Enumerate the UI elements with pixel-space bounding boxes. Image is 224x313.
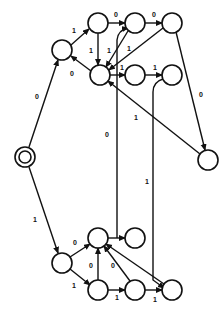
state-node-a <box>52 40 72 60</box>
state-node-t2 <box>125 13 145 33</box>
state-node-r <box>198 150 218 170</box>
edge-label: 1 <box>107 47 111 54</box>
edge-label: 1 <box>134 114 138 121</box>
state-node-m3 <box>162 65 182 85</box>
edge-label: 0 <box>35 93 39 100</box>
state-node-t1 <box>88 13 108 33</box>
edge-label: 1 <box>120 64 124 71</box>
edge-label: 1 <box>145 178 149 185</box>
edge-label: 1 <box>33 216 37 223</box>
state-node-m2 <box>125 65 145 85</box>
edge-label: 1 <box>115 294 119 301</box>
edge-m3-to-b6 <box>153 79 164 288</box>
edge-s-to-a <box>29 60 58 147</box>
edge-r-to-m <box>108 81 200 154</box>
edges-layer <box>29 23 205 290</box>
edge-label: 1 <box>153 296 157 303</box>
edge-m-to-a <box>71 56 91 71</box>
state-node-t3 <box>162 13 182 33</box>
edge-label: 0 <box>105 131 109 138</box>
edge-label: 0 <box>199 91 203 98</box>
edge-label: 0 <box>114 11 118 18</box>
edge-label: 1 <box>127 45 131 52</box>
state-node-b1 <box>52 253 72 273</box>
start-state-inner-ring <box>19 151 31 163</box>
state-node-b6 <box>162 280 182 300</box>
state-node-b3 <box>125 228 145 248</box>
edge-label: 1 <box>72 27 76 34</box>
state-node-b4 <box>88 280 108 300</box>
edge-label: 0 <box>111 262 115 269</box>
edge-label: 1 <box>89 47 93 54</box>
edge-s-to-b1 <box>29 167 58 253</box>
edge-label: 0 <box>152 11 156 18</box>
edge-label: 1 <box>153 64 157 71</box>
state-node-b5 <box>125 280 145 300</box>
edge-label: 0 <box>70 70 74 77</box>
edge-label: 0 <box>73 239 77 246</box>
state-diagram: 011010011011101010011 <box>0 0 224 313</box>
state-node-m <box>90 65 110 85</box>
state-node-b2 <box>88 228 108 248</box>
edge-label: 0 <box>89 262 93 269</box>
edge-label: 1 <box>72 282 76 289</box>
